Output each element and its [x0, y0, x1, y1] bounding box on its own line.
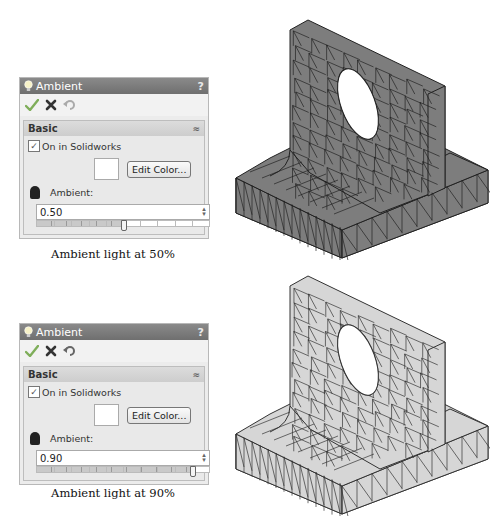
on-in-solidworks-label: On in Solidworks — [42, 141, 121, 152]
slider-thumb[interactable] — [121, 220, 127, 231]
panel-title: Ambient — [36, 80, 198, 93]
ambient-value[interactable]: 0.50 — [40, 207, 199, 218]
panel-toolbar — [20, 340, 208, 362]
figure-caption: Ambient light at 50% — [19, 247, 207, 261]
help-button[interactable]: ? — [198, 80, 204, 93]
x-icon[interactable] — [45, 345, 57, 357]
ambient-light-icon — [30, 186, 40, 199]
ambient-value[interactable]: 0.90 — [40, 453, 199, 464]
section-header[interactable]: Basic ≈ — [24, 121, 204, 136]
slider-thumb[interactable] — [190, 466, 196, 477]
figure-caption: Ambient light at 90% — [19, 486, 207, 500]
on-in-solidworks-label: On in Solidworks — [42, 387, 121, 398]
checkmark-icon[interactable] — [25, 99, 39, 111]
bracket-mesh-model — [230, 8, 490, 260]
color-row: Edit Color... — [24, 154, 204, 184]
ambient-value-input[interactable]: 0.50 ▴▾ — [36, 204, 210, 220]
on-in-solidworks-row: ✓ On in Solidworks — [24, 382, 204, 400]
basic-section: Basic ≈ ✓ On in Solidworks Edit Color...… — [23, 366, 205, 481]
edit-color-button[interactable]: Edit Color... — [127, 161, 191, 178]
ambient-slider[interactable] — [36, 220, 210, 227]
basic-section: Basic ≈ ✓ On in Solidworks Edit Color...… — [23, 120, 205, 235]
section-title: Basic — [28, 123, 58, 134]
panel-title-bar: Ambient ? — [20, 78, 208, 94]
ambient-light-icon — [30, 432, 40, 445]
checkmark-icon[interactable] — [25, 345, 39, 357]
double-chevron-up-icon[interactable]: ≈ — [192, 124, 200, 134]
ambient-label-row: Ambient: — [24, 430, 204, 450]
ambient-property-panel: Ambient ? Basic ≈ ✓ On in Solidworks Edi… — [19, 77, 209, 239]
color-swatch — [94, 158, 119, 180]
spin-arrows-icon[interactable]: ▴▾ — [199, 207, 209, 217]
ambient-label: Ambient: — [50, 433, 93, 444]
help-button[interactable]: ? — [198, 326, 204, 339]
spin-arrows-icon[interactable]: ▴▾ — [199, 453, 209, 463]
on-in-solidworks-row: ✓ On in Solidworks — [24, 136, 204, 154]
ambient-property-panel: Ambient ? Basic ≈ ✓ On in Solidworks Edi… — [19, 323, 209, 485]
double-chevron-up-icon[interactable]: ≈ — [192, 370, 200, 380]
panel-title-bar: Ambient ? — [20, 324, 208, 340]
section-title: Basic — [28, 369, 58, 380]
ambient-label-row: Ambient: — [24, 184, 204, 204]
ambient-label: Ambient: — [50, 187, 93, 198]
x-icon[interactable] — [45, 99, 57, 111]
on-in-solidworks-checkbox[interactable]: ✓ — [28, 140, 40, 152]
color-row: Edit Color... — [24, 400, 204, 430]
on-in-solidworks-checkbox[interactable]: ✓ — [28, 386, 40, 398]
section-header[interactable]: Basic ≈ — [24, 367, 204, 382]
lightbulb-icon — [24, 80, 33, 92]
ambient-slider[interactable] — [36, 466, 210, 473]
color-swatch — [94, 404, 119, 426]
panel-title: Ambient — [36, 326, 198, 339]
edit-color-button[interactable]: Edit Color... — [127, 407, 191, 424]
bracket-mesh-model — [230, 264, 490, 516]
undo-icon[interactable] — [63, 345, 76, 357]
undo-icon[interactable] — [63, 99, 76, 111]
lightbulb-icon — [24, 326, 33, 338]
panel-toolbar — [20, 94, 208, 116]
ambient-value-input[interactable]: 0.90 ▴▾ — [36, 450, 210, 466]
